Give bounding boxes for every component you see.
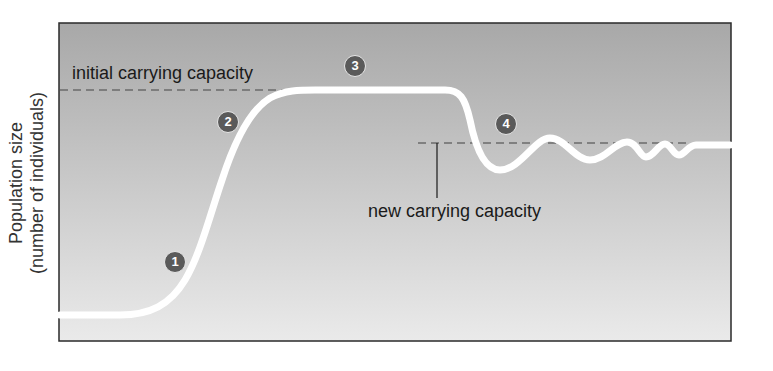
carrying-capacity-diagram: Population size (number of individuals) … <box>0 0 773 371</box>
new-capacity-label: new carrying capacity <box>368 201 541 222</box>
stage-badge-2: 2 <box>217 111 239 133</box>
y-axis-label-line2: (number of individuals) <box>27 92 48 274</box>
stage-badge-1: 1 <box>164 251 186 273</box>
initial-capacity-label: initial carrying capacity <box>72 63 253 84</box>
stage-badge-3: 3 <box>344 55 366 77</box>
y-axis-label-line1: Population size <box>6 122 27 244</box>
plot-area <box>0 0 773 371</box>
stage-badge-4: 4 <box>495 113 517 135</box>
